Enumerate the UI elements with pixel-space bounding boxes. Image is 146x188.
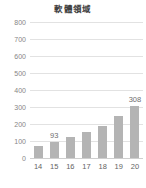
gridline-200 [30,124,143,125]
x-axis-tick-20: 20 [126,163,144,171]
y-axis-tick-400: 400 [0,87,26,94]
y-axis-tick-0: 0 [0,155,26,162]
bar-20[interactable] [130,106,139,158]
bar-value-label-15: 93 [43,132,65,140]
x-axis-line [30,158,143,159]
y-axis-tick-700: 700 [0,36,26,43]
y-axis-tick-600: 600 [0,53,26,60]
bar-chart: 軟體領域 800 700 600 500 400 300 200 100 0 9… [0,0,146,188]
gridline-800 [30,22,143,23]
bar-18[interactable] [98,126,107,158]
gridline-600 [30,56,143,57]
y-axis-tick-100: 100 [0,138,26,145]
gridline-400 [30,90,143,91]
gridline-300 [30,107,143,108]
chart-title: 軟體領域 [0,4,146,14]
plot-area: 93 308 [30,22,143,158]
y-axis-tick-800: 800 [0,19,26,26]
bar-15[interactable] [50,142,59,158]
y-axis-tick-200: 200 [0,121,26,128]
y-axis-tick-300: 300 [0,104,26,111]
bar-14[interactable] [34,146,43,158]
gridline-500 [30,73,143,74]
gridline-700 [30,39,143,40]
bar-17[interactable] [82,132,91,158]
bar-value-label-20: 308 [124,96,146,104]
bar-16[interactable] [66,137,75,158]
y-axis-tick-500: 500 [0,70,26,77]
bar-19[interactable] [114,116,123,159]
